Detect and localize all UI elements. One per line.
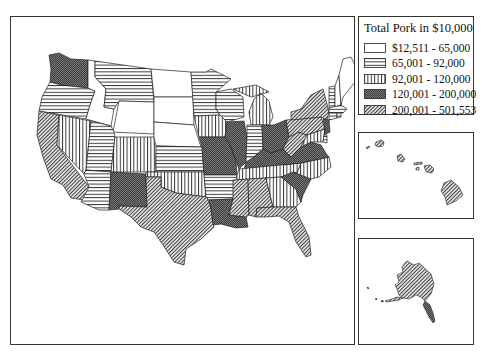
state-KS[interactable] xyxy=(156,146,204,172)
state-FL[interactable] xyxy=(256,207,311,257)
state-NY[interactable] xyxy=(291,89,329,120)
legend-label: $12,511 - 65,000 xyxy=(392,42,470,54)
state-ME[interactable] xyxy=(339,57,354,105)
state-NE[interactable] xyxy=(154,122,201,147)
state-AK-peninsula[interactable] xyxy=(385,297,403,302)
swatch-blank xyxy=(364,43,386,53)
main-map-frame xyxy=(10,16,355,345)
legend-item-class-4: 120,001 - 200,000 xyxy=(364,87,468,103)
state-HI-molokai[interactable] xyxy=(414,162,422,165)
legend-title: Total Pork in $10,000 xyxy=(364,21,468,36)
state-VT[interactable] xyxy=(329,86,335,108)
swatch-dense-crosshatch xyxy=(364,89,386,99)
state-RI[interactable] xyxy=(337,113,341,118)
legend-label: 92,001 - 120,000 xyxy=(392,73,471,85)
legend-item-class-2: 65,001 - 92,000 xyxy=(364,56,468,72)
state-AR[interactable] xyxy=(204,175,237,200)
alaska-inset xyxy=(358,238,474,345)
legend: Total Pork in $10,000 $12,511 - 65,000 6… xyxy=(358,16,474,115)
state-UT[interactable] xyxy=(86,121,115,172)
state-HI-big-island[interactable] xyxy=(441,180,463,205)
state-HI-niihau[interactable] xyxy=(366,146,370,149)
state-IA[interactable] xyxy=(194,115,227,137)
state-CT[interactable] xyxy=(329,113,337,120)
alaska-map xyxy=(359,239,473,344)
state-HI-lanai[interactable] xyxy=(416,167,419,170)
state-SD[interactable] xyxy=(154,97,194,125)
state-AK-aleutians[interactable] xyxy=(367,287,384,302)
hawaii-map xyxy=(359,133,473,218)
swatch-horizontal-lines xyxy=(364,58,386,68)
state-WY[interactable] xyxy=(113,101,154,134)
legend-item-class-1: $12,511 - 65,000 xyxy=(364,40,468,56)
state-DE[interactable] xyxy=(323,135,327,143)
swatch-vertical-lines xyxy=(364,74,386,84)
swatch-diagonal-lines xyxy=(364,105,386,115)
contiguous-us-map xyxy=(11,17,354,344)
legend-label: 65,001 - 92,000 xyxy=(392,57,465,69)
legend-label: 200,001 - 501,553 xyxy=(392,104,476,116)
state-ND[interactable] xyxy=(151,69,193,97)
hawaii-inset xyxy=(358,132,474,219)
legend-label: 120,001 - 200,000 xyxy=(392,88,476,100)
state-HI-oahu[interactable] xyxy=(397,154,405,162)
state-WA[interactable] xyxy=(49,53,88,88)
state-HI-kauai[interactable] xyxy=(375,140,384,147)
legend-item-class-3: 92,001 - 120,000 xyxy=(364,71,468,87)
state-CO[interactable] xyxy=(111,137,156,172)
state-AK-panhandle[interactable] xyxy=(423,301,435,323)
state-HI-maui[interactable] xyxy=(424,165,434,173)
state-AK[interactable] xyxy=(395,261,434,301)
state-NM[interactable] xyxy=(109,172,147,210)
legend-item-class-5: 200,001 - 501,553 xyxy=(364,102,468,118)
